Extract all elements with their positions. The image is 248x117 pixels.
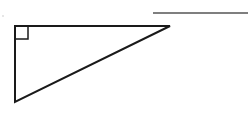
right-triangle <box>15 26 170 102</box>
diagram-canvas <box>0 0 248 117</box>
stray-mark <box>2 15 3 16</box>
right-angle-marker <box>15 26 28 39</box>
